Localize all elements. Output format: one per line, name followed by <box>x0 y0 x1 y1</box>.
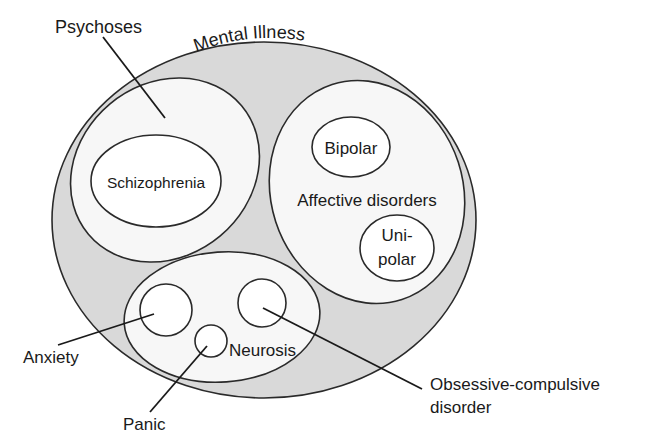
anxiety-set <box>140 284 192 336</box>
neurosis-label: Neurosis <box>229 341 296 360</box>
ocd-label-line2: disorder <box>430 398 492 417</box>
unipolar-label-line2: polar <box>378 250 416 269</box>
psychoses-label: Psychoses <box>55 17 142 37</box>
unipolar-set <box>360 215 434 281</box>
bipolar-label: Bipolar <box>325 139 378 158</box>
anxiety-label: Anxiety <box>23 348 79 367</box>
panic-set <box>195 325 227 357</box>
ocd-set <box>238 279 286 327</box>
affective-disorders-label: Affective disorders <box>297 191 437 210</box>
schizophrenia-label: Schizophrenia <box>107 174 206 191</box>
panic-label: Panic <box>123 415 166 434</box>
mental-illness-diagram: Mental Illness Psychoses Schizophrenia B… <box>0 0 651 445</box>
unipolar-label-line1: Uni- <box>381 226 412 245</box>
ocd-label-line1: Obsessive-compulsive <box>430 375 600 394</box>
